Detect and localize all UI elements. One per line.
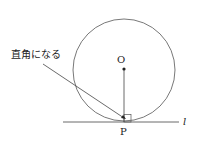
center-label-o: O bbox=[117, 55, 125, 65]
diagram-graphics bbox=[0, 0, 200, 150]
center-dot bbox=[122, 67, 125, 70]
line-label-l: l bbox=[183, 117, 186, 127]
tangent-diagram: 直角になる O P l bbox=[0, 0, 200, 150]
arrowhead-icon bbox=[121, 115, 126, 119]
annotation-label: 直角になる bbox=[11, 50, 61, 60]
annotation-pointer bbox=[43, 64, 124, 118]
point-label-p: P bbox=[120, 127, 127, 137]
